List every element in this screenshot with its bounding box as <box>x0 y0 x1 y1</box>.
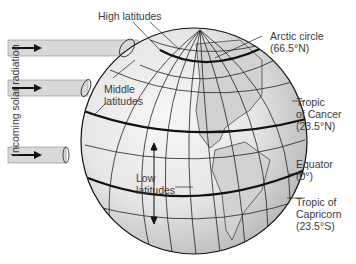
tropic-of-cancer-label-3: (23.5°N) <box>296 120 335 132</box>
equator-label-1: Equator <box>296 158 333 170</box>
middle-latitudes-label-2: latitudes <box>104 95 143 107</box>
globe <box>63 28 310 254</box>
tropic-of-capricorn-label-2: Capricorn <box>296 208 342 220</box>
low-latitudes-label-2: latitudes <box>136 184 175 196</box>
tropic-of-cancer-label-2: of Cancer <box>296 108 342 120</box>
tropic-of-capricorn-label-3: (23.5°S) <box>296 220 335 232</box>
low-latitudes-label-1: Low <box>136 172 155 184</box>
equator-label-2: (0°) <box>296 170 313 182</box>
tropic-of-cancer-label-1: Tropic <box>296 96 325 108</box>
incoming-solar-radiation-label: Incoming solar radiation <box>9 46 21 156</box>
middle-latitudes-label-1: Middle <box>104 83 135 95</box>
arctic-circle-label-2: (66.5°N) <box>270 42 309 54</box>
arctic-circle-label-1: Arctic circle <box>270 30 324 42</box>
tropic-of-capricorn-label-1: Tropic of <box>296 196 336 208</box>
high-latitudes-label: High latitudes <box>98 10 162 22</box>
